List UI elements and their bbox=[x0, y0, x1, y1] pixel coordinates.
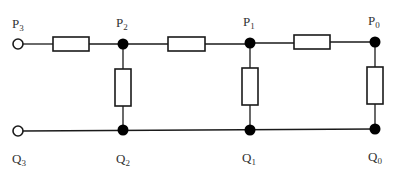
label-p1: P1 bbox=[243, 14, 255, 31]
label-p3: P3 bbox=[12, 16, 24, 33]
shunt-resistor-p0-q0 bbox=[367, 67, 383, 104]
junction-q0 bbox=[370, 124, 381, 135]
series-resistor-p1-p0 bbox=[294, 35, 330, 49]
bottom-rail bbox=[22, 129, 375, 131]
terminal-q3 bbox=[13, 126, 23, 136]
label-q3: Q3 bbox=[12, 151, 26, 168]
label-p2: P2 bbox=[116, 15, 128, 32]
junction-q2 bbox=[118, 125, 129, 136]
series-resistor-p2-p1 bbox=[168, 37, 205, 51]
shunt-resistor-p1-q1 bbox=[242, 68, 258, 105]
junction-q1 bbox=[245, 125, 256, 136]
shunt-resistor-p2-q2 bbox=[115, 69, 131, 106]
label-q0: Q0 bbox=[368, 149, 382, 166]
label-q1: Q1 bbox=[242, 150, 256, 167]
junction-p0 bbox=[370, 37, 381, 48]
series-resistor-p3-p2 bbox=[53, 37, 89, 51]
label-q2: Q2 bbox=[116, 151, 130, 168]
label-p0: P0 bbox=[368, 13, 380, 30]
ladder-circuit-diagram: P3 P2 P1 P0 Q3 Q2 Q1 Q0 bbox=[0, 0, 393, 180]
terminal-p3 bbox=[13, 39, 23, 49]
junction-p1 bbox=[245, 38, 256, 49]
junction-p2 bbox=[118, 39, 129, 50]
